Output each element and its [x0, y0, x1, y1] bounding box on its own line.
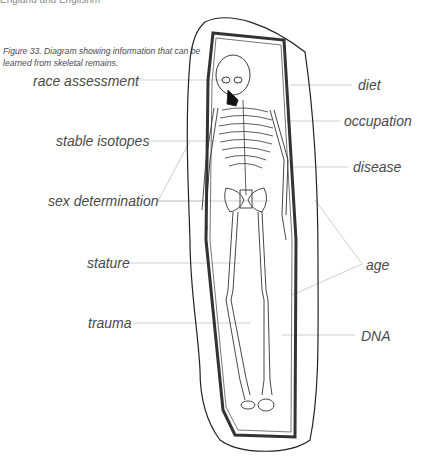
label-race-assessment: race assessment — [33, 73, 139, 89]
leader-lines — [130, 80, 362, 335]
label-dna: DNA — [361, 328, 391, 344]
label-age: age — [366, 257, 389, 273]
skeleton-coffin-illustration — [0, 0, 428, 463]
label-sex-determination: sex determination — [48, 193, 159, 209]
label-diet: diet — [358, 77, 381, 93]
label-stature: stature — [87, 255, 130, 271]
label-stable-isotopes: stable isotopes — [56, 133, 149, 149]
leg-bones-icon — [226, 212, 274, 411]
ribcage-icon — [219, 100, 273, 195]
label-trauma: trauma — [88, 315, 132, 331]
label-occupation: occupation — [344, 113, 412, 129]
label-disease: disease — [353, 159, 401, 175]
coffin-inner-frame-icon — [206, 33, 296, 437]
